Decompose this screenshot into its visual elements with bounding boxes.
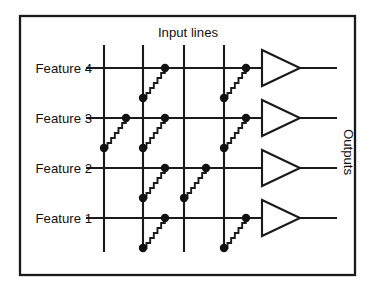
input-lines-title: Input lines xyxy=(158,25,219,40)
junction-dot-feature-feature-4-col4 xyxy=(242,64,250,72)
junction-dot-feature-feature-2-col3 xyxy=(202,164,210,172)
junction-dot-input-feature-3-col2 xyxy=(139,144,147,152)
crossbar-canvas: Input linesFeature 4Feature 3Feature 2Fe… xyxy=(0,0,372,289)
junction-dot-feature-feature-1-col2 xyxy=(161,214,169,222)
junction-dot-input-feature-2-col3 xyxy=(180,194,188,202)
feature-label-feature-1: Feature 1 xyxy=(36,211,92,226)
junction-dot-feature-feature-1-col4 xyxy=(242,214,250,222)
junction-dot-input-feature-3-col1 xyxy=(100,144,108,152)
feature-label-feature-4: Feature 4 xyxy=(36,61,92,76)
junction-dot-feature-feature-3-col2 xyxy=(161,114,169,122)
junction-dot-feature-feature-4-col2 xyxy=(161,64,169,72)
feature-label-feature-3: Feature 3 xyxy=(36,111,92,126)
junction-dot-input-feature-1-col2 xyxy=(139,244,147,252)
junction-dot-feature-feature-3-col1 xyxy=(122,114,130,122)
junction-dot-input-feature-4-col4 xyxy=(220,94,228,102)
feature-label-feature-2: Feature 2 xyxy=(36,161,92,176)
outputs-label: Outputs xyxy=(341,129,356,176)
junction-dot-input-feature-2-col2 xyxy=(139,194,147,202)
crossbar-diagram: Input linesFeature 4Feature 3Feature 2Fe… xyxy=(0,0,372,289)
junction-dot-input-feature-3-col4 xyxy=(220,144,228,152)
junction-dot-input-feature-4-col2 xyxy=(139,94,147,102)
junction-dot-feature-feature-2-col2 xyxy=(161,164,169,172)
canvas-background xyxy=(0,0,372,289)
junction-dot-input-feature-1-col4 xyxy=(220,244,228,252)
junction-dot-feature-feature-3-col4 xyxy=(242,114,250,122)
